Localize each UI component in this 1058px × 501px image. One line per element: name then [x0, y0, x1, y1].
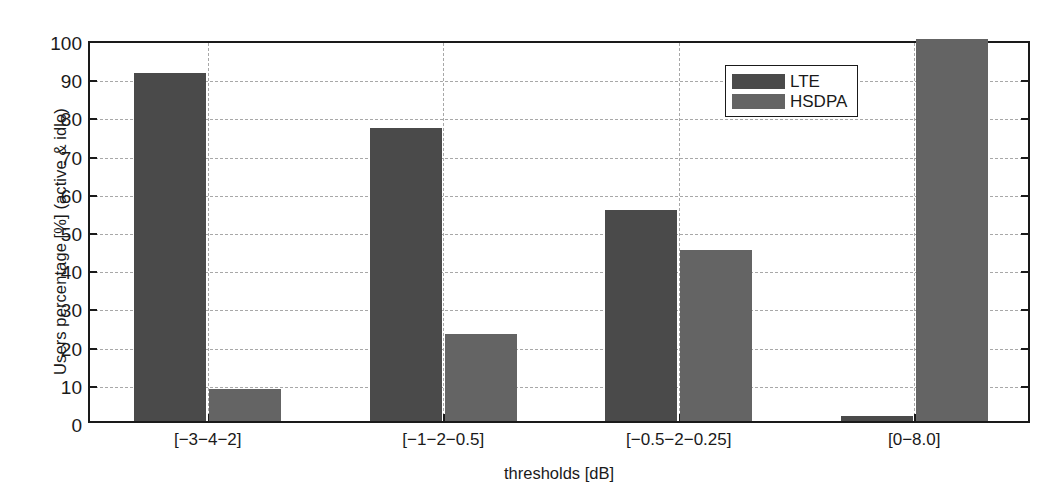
y-tick-label: 80: [61, 110, 82, 129]
x-tick-label: [−0.5−2−0.25]: [626, 430, 731, 450]
y-gridline: [90, 387, 1028, 388]
x-gridline: [208, 43, 209, 421]
y-tick-label: 90: [61, 72, 82, 91]
y-tick-mark: [90, 118, 97, 120]
y-tick-label: 50: [61, 225, 82, 244]
y-gridline: [90, 158, 1028, 159]
y-gridline: [90, 310, 1028, 311]
y-tick-label: 10: [61, 377, 82, 396]
y-gridline: [90, 272, 1028, 273]
chart-legend: LTE HSDPA: [725, 65, 858, 117]
y-tick-mark: [90, 80, 97, 82]
bar-lte-1: [370, 128, 442, 421]
legend-label-hsdpa: HSDPA: [790, 93, 847, 110]
y-tick-mark: [1021, 386, 1028, 388]
y-tick-label: 100: [50, 34, 82, 53]
bar-hsdpa-0: [209, 389, 281, 421]
y-tick-mark: [90, 157, 97, 159]
y-tick-mark: [1021, 195, 1028, 197]
y-tick-mark: [90, 195, 97, 197]
legend-swatch-lte: [732, 74, 785, 89]
y-tick-mark: [1021, 271, 1028, 273]
y-gridline: [90, 196, 1028, 197]
y-tick-label: 40: [61, 263, 82, 282]
bar-lte-0: [134, 73, 206, 421]
y-tick-label: 20: [61, 339, 82, 358]
y-gridline: [90, 119, 1028, 120]
y-tick-label: 30: [61, 301, 82, 320]
legend-label-lte: LTE: [790, 73, 820, 90]
y-tick-mark: [90, 386, 97, 388]
y-gridline: [90, 349, 1028, 350]
y-tick-mark: [1021, 348, 1028, 350]
y-tick-label: 0: [71, 416, 82, 435]
y-tick-mark: [1021, 309, 1028, 311]
plot-area: 0102030405060708090100[−3−4−2][−1−2−0.5]…: [88, 41, 1030, 423]
y-tick-mark: [90, 348, 97, 350]
x-axis-title: thresholds [dB]: [88, 464, 1030, 483]
x-tick-label: [0−8.0]: [888, 430, 940, 450]
bar-hsdpa-2: [680, 250, 752, 421]
x-tick-label: [−3−4−2]: [174, 430, 242, 450]
bar-chart-figure: Users percentage [%] (active & idle) 010…: [0, 0, 1058, 501]
y-tick-mark: [1021, 157, 1028, 159]
y-gridline: [90, 234, 1028, 235]
y-tick-label: 60: [61, 186, 82, 205]
y-tick-mark: [90, 271, 97, 273]
y-tick-mark: [1021, 118, 1028, 120]
y-tick-label: 70: [61, 148, 82, 167]
y-gridline: [90, 81, 1028, 82]
plot-inner: 0102030405060708090100[−3−4−2][−1−2−0.5]…: [90, 43, 1028, 421]
legend-item-hsdpa: HSDPA: [732, 91, 851, 111]
y-tick-mark: [1021, 233, 1028, 235]
bar-lte-3: [841, 416, 913, 421]
legend-swatch-hsdpa: [732, 94, 785, 109]
bar-hsdpa-1: [445, 334, 517, 421]
x-tick-label: [−1−2−0.5]: [402, 430, 484, 450]
bar-lte-2: [605, 210, 677, 421]
y-tick-mark: [90, 309, 97, 311]
bar-hsdpa-3: [916, 39, 988, 421]
y-tick-mark: [1021, 80, 1028, 82]
y-tick-mark: [90, 233, 97, 235]
legend-item-lte: LTE: [732, 71, 851, 91]
